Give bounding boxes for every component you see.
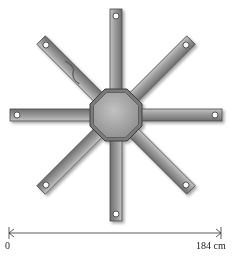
arm-left <box>10 109 96 121</box>
bolt-hole-icon <box>113 13 119 19</box>
arm-bottom <box>110 135 122 221</box>
arm-right <box>136 109 222 121</box>
arm-lower-left <box>37 125 106 194</box>
arm-upper-left <box>37 36 106 105</box>
scale-bar <box>9 227 221 239</box>
arm-top <box>110 9 122 95</box>
bolt-hole-icon <box>212 112 218 118</box>
scale-start-label: 0 <box>5 241 10 251</box>
star-frame-diagram <box>0 0 240 261</box>
octagon-hub <box>90 89 142 141</box>
scale-end-label: 184 cm <box>196 241 226 251</box>
bolt-hole-icon <box>14 112 20 118</box>
bolt-hole-icon <box>113 211 119 217</box>
arm-upper-right <box>126 36 195 105</box>
arm-lower-right <box>126 125 195 194</box>
